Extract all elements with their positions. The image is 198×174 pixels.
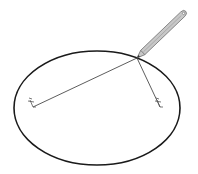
ellipse-drawing-diagram <box>0 0 198 174</box>
ellipse-curve <box>14 51 180 165</box>
string-segment-left <box>33 58 137 107</box>
string-segment-right <box>137 58 160 107</box>
diagram-canvas <box>0 0 198 174</box>
pencil-icon <box>135 9 188 60</box>
pin-icon-left-focus <box>28 98 36 107</box>
